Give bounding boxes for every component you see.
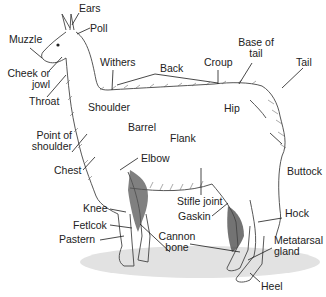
label-base-of-tail: Base of tail bbox=[234, 37, 278, 59]
label-fetlock: Fetlcok bbox=[73, 220, 107, 231]
label-croup: Croup bbox=[204, 57, 233, 68]
llama-anatomy-diagram: Ears Poll Muzzle Cheek or jowl Throat Wi… bbox=[0, 0, 326, 297]
label-back: Back bbox=[160, 63, 183, 74]
label-tail: Tail bbox=[296, 57, 312, 68]
label-chest: Chest bbox=[54, 165, 81, 176]
label-metatarsal-gland: Metatarsal gland bbox=[274, 235, 323, 257]
label-stifle-joint: Stifle joint bbox=[177, 196, 223, 207]
label-buttock: Buttock bbox=[287, 166, 322, 177]
label-throat: Throat bbox=[29, 96, 59, 107]
label-heel: Heel bbox=[261, 281, 283, 292]
label-flank: Flank bbox=[170, 133, 196, 144]
label-hip: Hip bbox=[224, 103, 240, 114]
label-hock: Hock bbox=[285, 208, 309, 219]
label-elbow: Elbow bbox=[141, 153, 170, 164]
label-pastern: Pastern bbox=[59, 234, 95, 245]
label-poll: Poll bbox=[90, 23, 108, 34]
label-shoulder: Shoulder bbox=[88, 102, 130, 113]
label-cheek-or-jowl: Cheek or jowl bbox=[2, 68, 50, 90]
label-withers: Withers bbox=[100, 57, 136, 68]
label-cannon-bone: Cannon bone bbox=[155, 231, 199, 253]
label-ears: Ears bbox=[79, 3, 101, 14]
label-gaskin: Gaskin bbox=[178, 211, 211, 222]
label-barrel: Barrel bbox=[128, 122, 156, 133]
label-knee: Knee bbox=[83, 203, 108, 214]
gaskin-dark-fur bbox=[227, 206, 244, 252]
label-point-of-shoulder: Point of shoulder bbox=[20, 130, 72, 152]
llama-eye bbox=[56, 43, 59, 46]
label-muzzle: Muzzle bbox=[9, 34, 42, 45]
